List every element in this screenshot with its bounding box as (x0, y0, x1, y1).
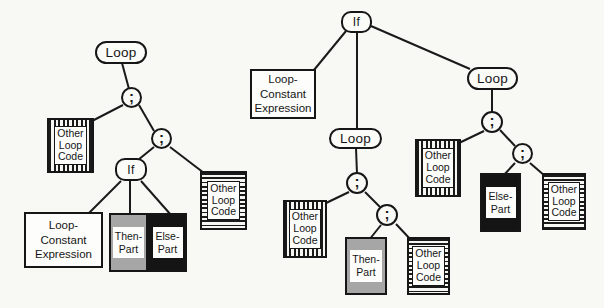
left-if-label: If (127, 163, 134, 177)
right-then-other-loop-code-before-label: Other Loop Code (289, 209, 321, 248)
edge (122, 63, 129, 89)
left-else-part-label: Else- Part (153, 227, 183, 258)
loop-unswitching-diagram: Loop ; Other Loop Code ; If Other Loop C… (0, 0, 604, 308)
left-loop-label: Loop (105, 45, 136, 60)
right-else-part-label: Else- Part (486, 187, 516, 218)
right-then-semicolon-top-node: ; (346, 172, 368, 194)
edge (170, 147, 204, 173)
right-else-semicolon-top-node: ; (481, 111, 503, 133)
edge (92, 105, 123, 121)
left-then-part-label: Then- Part (113, 227, 144, 258)
right-then-semicolon-top-label: ; (355, 174, 360, 189)
right-loop-constant-expression-box: Loop- Constant Expression (250, 69, 316, 119)
edge (500, 130, 515, 146)
right-then-semicolon-inner-label: ; (385, 206, 390, 221)
right-if-label: If (353, 15, 360, 29)
right-else-loop-node: Loop (467, 67, 518, 90)
right-else-loop-label: Loop (477, 71, 508, 86)
left-then-part-box: Then- Part (109, 213, 148, 272)
right-else-semicolon-top-label: ; (490, 113, 495, 128)
right-then-other-loop-code-after-label: Other Loop Code (412, 246, 444, 285)
right-else-semicolon-inner-label: ; (520, 145, 525, 160)
right-then-semicolon-inner-node: ; (376, 204, 398, 226)
left-loop-constant-expression-label: Loop- Constant Expression (35, 218, 92, 262)
left-other-loop-code-before-label: Other Loop Code (54, 126, 86, 165)
edge (324, 192, 349, 204)
left-semicolon-inner-label: ; (159, 130, 164, 145)
edge (139, 105, 154, 131)
right-else-other-loop-code-after-box: Other Loop Code (542, 173, 586, 230)
left-other-loop-code-after-box: Other Loop Code (200, 171, 247, 230)
right-loop-constant-expression-label: Loop- Constant Expression (255, 72, 312, 116)
left-semicolon-inner-node: ; (151, 128, 172, 149)
right-else-other-loop-code-before-label: Other Loop Code (422, 148, 454, 187)
right-then-part-label: Then- Part (350, 250, 381, 281)
edge (141, 181, 171, 215)
right-else-part-box: Else- Part (480, 173, 521, 232)
left-semicolon-top-label: ; (129, 89, 134, 104)
right-then-part-box: Then- Part (345, 237, 387, 295)
right-then-loop-label: Loop (340, 131, 371, 146)
left-loop-constant-expression-box: Loop- Constant Expression (24, 212, 103, 268)
left-loop-node: Loop (95, 41, 147, 64)
left-if-node: If (115, 158, 147, 181)
edge (314, 31, 346, 70)
edge (371, 26, 470, 69)
right-else-semicolon-inner-node: ; (512, 143, 533, 164)
edge (459, 131, 484, 143)
right-if-node: If (341, 11, 372, 33)
left-else-part-box: Else- Part (148, 213, 187, 272)
right-else-other-loop-code-before-box: Other Loop Code (415, 139, 461, 197)
left-other-loop-code-before-box: Other Loop Code (47, 118, 94, 173)
edge (365, 192, 380, 207)
edge (356, 148, 357, 174)
right-then-other-loop-code-after-box: Other Loop Code (407, 237, 450, 295)
edge (88, 181, 121, 214)
left-semicolon-top-node: ; (121, 87, 142, 108)
right-then-other-loop-code-before-box: Other Loop Code (283, 200, 327, 258)
left-other-loop-code-after-label: Other Loop Code (207, 181, 239, 220)
right-then-loop-node: Loop (329, 128, 382, 149)
right-else-other-loop-code-after-label: Other Loop Code (548, 182, 580, 221)
